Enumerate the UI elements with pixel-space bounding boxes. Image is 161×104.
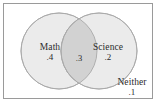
neither-label: Neither .1 xyxy=(108,78,156,97)
venn-diagram-figure: Math .4 .3 Science .2 Neither .1 xyxy=(0,0,161,104)
math-set-value: .4 xyxy=(30,53,70,62)
science-label: Science .2 xyxy=(86,43,130,62)
neither-set-value: .1 xyxy=(108,88,156,97)
science-set-value: .2 xyxy=(86,53,130,62)
math-label: Math .4 xyxy=(30,43,70,62)
